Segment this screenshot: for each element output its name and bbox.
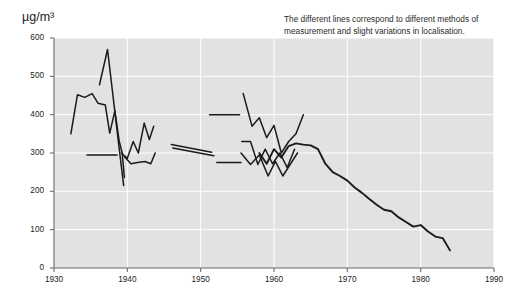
y-tick-label: 100 — [18, 225, 44, 234]
y-tick-label: 400 — [18, 110, 44, 119]
x-tick-label: 1980 — [401, 275, 441, 284]
x-tick-label: 1990 — [474, 275, 514, 284]
y-tick-label: 500 — [18, 71, 44, 80]
x-tick-label: 1960 — [254, 275, 294, 284]
x-tick-label: 1940 — [107, 275, 147, 284]
plot-canvas — [0, 0, 518, 302]
y-tick-label: 300 — [18, 148, 44, 157]
x-tick-label: 1930 — [34, 275, 74, 284]
x-tick-label: 1970 — [327, 275, 367, 284]
y-tick-label: 200 — [18, 186, 44, 195]
chart-figure: µg/m³ The different lines correspond to … — [0, 0, 518, 302]
y-tick-label: 0 — [18, 263, 44, 272]
x-tick-label: 1950 — [181, 275, 221, 284]
y-tick-label: 600 — [18, 33, 44, 42]
